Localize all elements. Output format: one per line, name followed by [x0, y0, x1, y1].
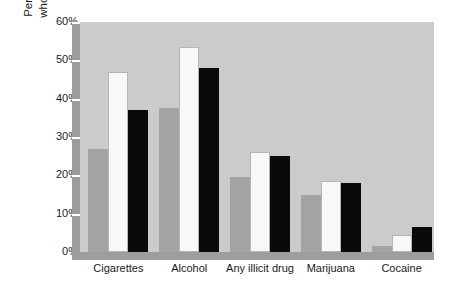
y-axis-tick-mark: [72, 99, 80, 101]
y-axis-tick-mark: [72, 60, 80, 62]
bar-cocaine-series-2: [392, 235, 412, 252]
x-axis-tick-label: Any illicit drug: [226, 262, 294, 275]
bar-cigarettes-series-3: [128, 110, 148, 252]
x-axis-tick-label: Marijuana: [307, 262, 355, 275]
x-axis-spine: [72, 252, 434, 260]
bar-cigarettes-series-2: [108, 72, 128, 252]
bar-cigarettes-series-1: [88, 149, 108, 253]
bar-cocaine-series-1: [372, 246, 392, 252]
y-axis-tick-mark: [72, 175, 80, 177]
y-axis-tick-mark: [72, 22, 80, 24]
y-axis-tick-mark: [72, 214, 80, 216]
bar-chart: Percent of 12 to 17 year-olds who ever u…: [0, 0, 450, 289]
x-axis-tick-labels: CigarettesAlcoholAny illicit drugMarijua…: [80, 262, 434, 278]
plot-frame: [72, 22, 434, 260]
bar-alcohol-series-3: [199, 68, 219, 252]
x-axis-tick-label: Alcohol: [171, 262, 207, 275]
bar-any-illicit-drug-series-3: [270, 156, 290, 252]
y-axis-title-line-1: Percent of 12 to 17 year-olds: [21, 0, 36, 17]
bar-marijuana-series-2: [321, 181, 341, 252]
bar-alcohol-series-1: [159, 108, 179, 252]
bar-alcohol-series-2: [179, 47, 199, 252]
bar-any-illicit-drug-series-1: [230, 177, 250, 252]
y-axis-tick-mark: [72, 137, 80, 139]
bar-marijuana-series-1: [301, 195, 321, 253]
bar-any-illicit-drug-series-2: [250, 152, 270, 252]
bar-marijuana-series-3: [341, 183, 361, 252]
x-axis-tick-label: Cigarettes: [93, 262, 143, 275]
plot-area: [80, 22, 434, 252]
x-axis-tick-label: Cocaine: [381, 262, 421, 275]
bar-cocaine-series-3: [412, 227, 432, 252]
